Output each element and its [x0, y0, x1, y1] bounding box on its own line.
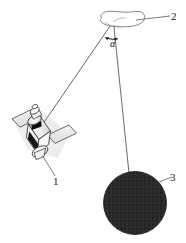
label-dark-sphere: 3 [170, 172, 176, 183]
blob-outline [100, 11, 144, 27]
diagram-svg [0, 0, 186, 243]
sphere-group [104, 172, 167, 235]
label-angle-alpha: α [110, 39, 115, 49]
dark-sphere [104, 172, 167, 235]
label-target-blob: 2 [171, 11, 177, 22]
label-satellite: 1 [53, 176, 59, 187]
figure-canvas: 1 2 3 α [0, 0, 186, 243]
sight-line-satellite-to-vertex [43, 23, 113, 125]
leader-line-label-1 [43, 156, 56, 177]
